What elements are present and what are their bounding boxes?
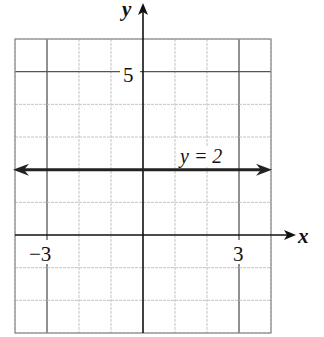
coordinate-plane: 5 −3 3 y = 2 x y [0, 0, 324, 337]
y-tick-label-5: 5 [123, 63, 134, 87]
y-axis-label: y [119, 0, 132, 21]
x-tick-label-neg3: −3 [29, 242, 51, 266]
labels: 5 −3 3 y = 2 x y [28, 0, 309, 266]
line-label: y = 2 [178, 145, 222, 168]
x-tick-label-3: 3 [233, 242, 244, 266]
axes [15, 3, 296, 333]
x-axis-label: x [297, 224, 309, 248]
